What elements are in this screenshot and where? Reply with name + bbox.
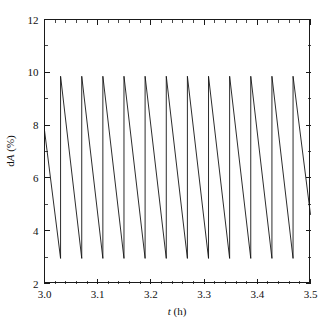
chart-figure: 3.03.13.23.33.43.5 24681012 t (h) dA (%) xyxy=(0,0,325,326)
x-tick-label: 3.4 xyxy=(250,288,264,300)
x-tick-label: 3.3 xyxy=(197,288,211,300)
x-tick-label: 3.1 xyxy=(91,288,105,300)
y-tick-label: 2 xyxy=(33,278,39,290)
y-tick-label: 6 xyxy=(33,172,39,184)
x-axis-title: t (h) xyxy=(168,305,187,318)
sawtooth-line-chart: 3.03.13.23.33.43.5 24681012 t (h) dA (%) xyxy=(0,0,325,326)
x-tick-label: 3.2 xyxy=(144,288,158,300)
x-tick-label: 3.0 xyxy=(38,288,52,300)
y-tick-label: 4 xyxy=(33,225,39,237)
y-axis-title: dA (%) xyxy=(4,135,17,167)
y-tick-label: 10 xyxy=(28,66,40,78)
x-tick-label: 3.5 xyxy=(304,288,318,300)
y-tick-label: 12 xyxy=(28,14,39,26)
y-tick-label: 8 xyxy=(33,119,39,131)
